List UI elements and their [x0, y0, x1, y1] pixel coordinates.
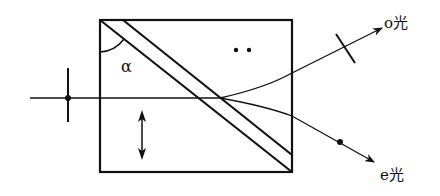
polarization-dot [65, 95, 71, 101]
optic-axis-dot [234, 48, 238, 52]
o-ray-label: o光 [384, 14, 408, 32]
prism-diagonal-2 [123, 20, 292, 155]
e-ray-polarization-dot [337, 139, 343, 145]
o-ray-polarization-tick [336, 34, 355, 63]
prism-diagonal-1 [100, 20, 292, 172]
e-ray-label: e光 [380, 166, 404, 184]
angle-arc [100, 39, 124, 52]
prism-diagram: α o光 e光 [0, 0, 440, 196]
o-ray [220, 28, 382, 98]
e-ray [220, 98, 374, 162]
angle-label: α [121, 57, 132, 76]
optic-axis-dot [247, 48, 251, 52]
